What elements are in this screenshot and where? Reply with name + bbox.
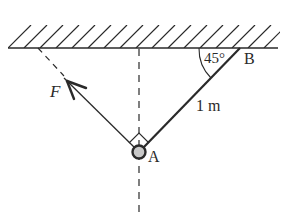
ceiling-hatching — [8, 25, 287, 48]
rope-ab — [143, 48, 240, 148]
force-line — [64, 78, 135, 148]
pendulum-force-diagram: F 45° B 1 m A — [0, 0, 287, 216]
force-line-extension — [38, 48, 64, 76]
label-angle: 45° — [204, 50, 225, 66]
label-force: F — [49, 82, 61, 101]
label-length: 1 m — [196, 97, 221, 114]
label-point-a: A — [148, 148, 160, 165]
ring-a — [133, 146, 146, 159]
label-point-b: B — [244, 50, 255, 67]
